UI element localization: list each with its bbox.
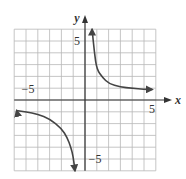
x-axis-label: x xyxy=(174,93,181,107)
y-axis-arrow-icon xyxy=(82,15,88,23)
hyperbola-graph: xy−555−5 xyxy=(0,0,186,179)
y-axis-label: y xyxy=(72,11,80,25)
y-tick-label: −5 xyxy=(89,152,102,166)
curve-branch xyxy=(17,111,75,171)
y-tick-label: 5 xyxy=(74,34,80,48)
x-tick-label: 5 xyxy=(149,102,155,116)
x-tick-label: −5 xyxy=(22,82,35,96)
curve-branch xyxy=(92,29,152,89)
x-axis-arrow-icon xyxy=(164,97,172,103)
